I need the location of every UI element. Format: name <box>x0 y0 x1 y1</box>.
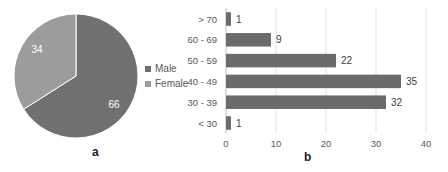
y-category-label: > 70 <box>198 14 217 25</box>
bar-value-label: 32 <box>391 97 403 108</box>
x-tick-label: 40 <box>421 138 432 149</box>
bar <box>226 95 386 109</box>
y-category-label: 60 - 69 <box>187 34 217 45</box>
y-category-label: 30 - 39 <box>187 97 217 108</box>
bar <box>226 12 231 26</box>
bar-value-label: 1 <box>236 118 242 129</box>
bar-category-labels: > 7060 - 6950 - 5940 - 4930 - 39< 30 <box>187 14 217 129</box>
bar-grid <box>226 8 426 133</box>
x-tick-label: 20 <box>321 138 332 149</box>
bar-axis-ticks: 010203040 <box>223 138 431 149</box>
x-tick-label: 10 <box>271 138 282 149</box>
bar-value-label: 1 <box>236 14 242 25</box>
x-tick-label: 0 <box>223 138 228 149</box>
bar-value-label: 22 <box>341 55 353 66</box>
bar-value-label: 9 <box>276 34 282 45</box>
y-category-label: 40 - 49 <box>187 76 217 87</box>
bar <box>226 75 401 89</box>
bar-chart: 192235321 > 7060 - 6950 - 5940 - 4930 - … <box>0 0 448 172</box>
bar <box>226 33 271 47</box>
bar-value-label: 35 <box>406 76 418 87</box>
x-tick-label: 30 <box>371 138 382 149</box>
bar <box>226 54 336 68</box>
y-category-label: < 30 <box>198 118 217 129</box>
bar-series: 192235321 <box>226 12 418 130</box>
y-category-label: 50 - 59 <box>187 55 217 66</box>
panel-label-b: b <box>304 150 311 164</box>
bar <box>226 116 231 130</box>
